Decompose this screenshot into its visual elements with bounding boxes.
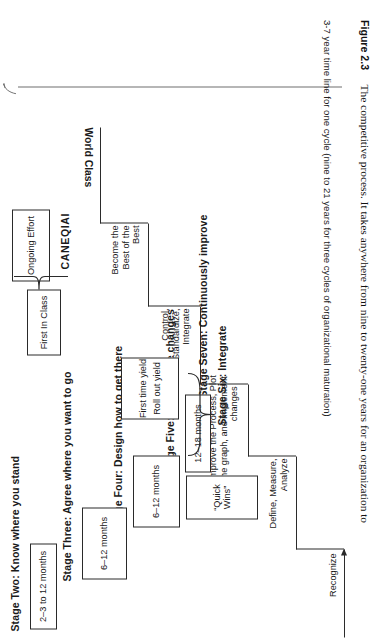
stage-title-stage-seven: Stage Seven: Continuously improve [198, 214, 210, 397]
tread-improve-process [248, 384, 249, 456]
progress-arrow [18, 86, 342, 87]
tread-become-best [148, 223, 149, 306]
figure-diagram-canvas: Recognize Define, Measure, Analyze Impro… [0, 0, 382, 643]
progress-arrow-head [3, 82, 17, 94]
riser-1 [296, 548, 344, 549]
tread-world-class [100, 127, 101, 223]
baseline-arrow-recognize [344, 549, 345, 637]
duration-box-stage-four: 6–12 months [133, 455, 180, 527]
step-label-define-measure-analyze: Define, Measure, Analyze [268, 458, 289, 551]
riser-2 [248, 455, 296, 456]
riser-4 [148, 305, 200, 306]
riser-5 [100, 222, 148, 223]
duration-box-stage-two: 2–3 to 12 months [30, 543, 57, 629]
stage-title-stage-two: Stage Two: Know where you stand [10, 455, 22, 631]
brace-stage-six [186, 371, 216, 457]
stage-title-stage-six: Stage Six: Integrate [217, 325, 229, 425]
duration-box-stage-three: 6–12 months [82, 507, 127, 579]
box-quick-wins: “Quick Wins” [186, 475, 258, 519]
staircase-diagram: Recognize Define, Measure, Analyze Impro… [0, 0, 382, 643]
stage-title-stage-three: Stage Three: Agree where you want to go [62, 371, 74, 581]
tread-define-measure-analyze [296, 456, 297, 549]
brace-stage-seven [14, 255, 68, 351]
box-yield: First time yield Roll out yield [121, 357, 179, 419]
box-first-time-yield-label: First time yield [138, 358, 148, 417]
step-label-recognize: Recognize [328, 553, 339, 643]
step-label-world-class: World Class [82, 127, 94, 219]
step-label-become-best-of-best: Become the Best of the Best [110, 225, 142, 308]
box-roll-out-yield-label: Roll out yield [152, 362, 162, 415]
